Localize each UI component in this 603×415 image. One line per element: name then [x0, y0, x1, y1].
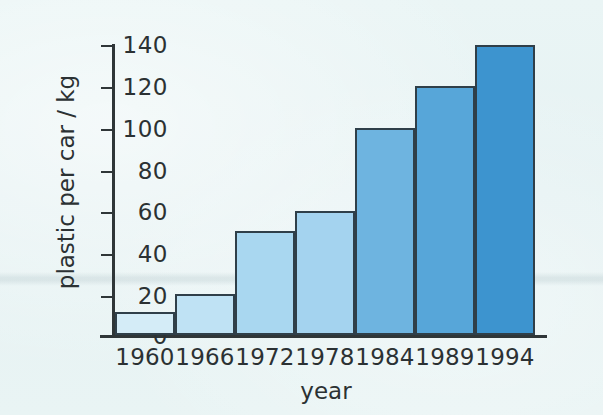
- bar-1994: [475, 45, 535, 335]
- bar-1984: [355, 128, 415, 335]
- bar-series: [115, 30, 540, 338]
- x-axis-tick-label: 1978: [291, 344, 359, 370]
- x-axis-tick-label: 1966: [171, 344, 239, 370]
- x-axis-tick-label: 1984: [351, 344, 419, 370]
- bar-1978: [295, 211, 355, 335]
- bar-1960: [115, 312, 175, 335]
- x-axis-tick-label: 1972: [231, 344, 299, 370]
- x-axis-tick-label: 1989: [411, 344, 479, 370]
- x-axis-tick-label: 1960: [111, 344, 179, 370]
- bar-1989: [415, 86, 475, 335]
- bar-chart-figure: 140 120 100 80 60 40 20 0 plastic per ca…: [0, 0, 603, 415]
- y-axis-title: plastic per car / kg: [53, 75, 79, 289]
- x-axis-title: year: [112, 378, 540, 404]
- plot-area: 140 120 100 80 60 40 20 0 plastic per ca…: [112, 30, 540, 338]
- x-axis-tick-label: 1994: [471, 344, 539, 370]
- x-axis-tick-labels: 1960 1966 1972 1978 1984 1989 1994: [115, 344, 540, 376]
- bar-1966: [175, 294, 235, 335]
- bar-1972: [235, 231, 295, 335]
